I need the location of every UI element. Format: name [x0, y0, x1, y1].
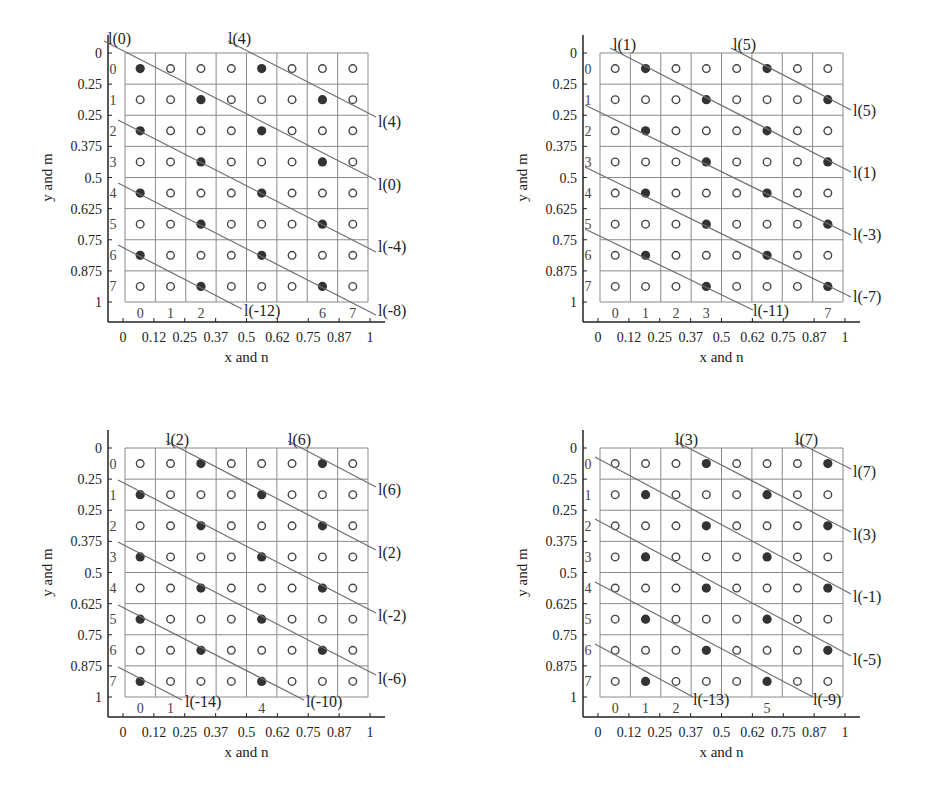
row-index-label: 5 — [110, 612, 117, 627]
y-tick-label: 0.75 — [553, 233, 578, 248]
row-index-label: 6 — [585, 643, 592, 658]
row-index-label: 5 — [110, 217, 117, 232]
row-index-label: 0 — [585, 457, 592, 472]
open-sample-dot — [167, 647, 175, 655]
open-sample-dot — [824, 615, 832, 623]
open-sample-dot — [258, 584, 266, 592]
open-sample-dot — [258, 283, 266, 291]
y-tick-label: 0.875 — [71, 659, 103, 674]
x-tick-label: 0.5 — [713, 725, 731, 740]
row-index-label: 2 — [110, 124, 117, 139]
row-index-label: 4 — [110, 186, 117, 201]
x-tick-label: 0.12 — [142, 330, 167, 345]
filled-sample-dot — [702, 459, 711, 468]
open-sample-dot — [733, 647, 741, 655]
diagonal-line-label: l(2) — [378, 544, 401, 562]
y-tick-label: 0 — [570, 46, 577, 61]
open-sample-dot — [167, 460, 175, 468]
open-sample-dot — [733, 189, 741, 197]
diagonal-line — [585, 105, 851, 235]
open-sample-dot — [672, 96, 680, 104]
filled-sample-dot — [641, 677, 650, 686]
open-sample-dot — [672, 252, 680, 260]
x-tick-label: 0.87 — [327, 725, 352, 740]
open-sample-dot — [794, 220, 802, 228]
open-sample-dot — [733, 127, 741, 135]
open-sample-dot — [763, 158, 771, 166]
y-tick-label: 0.25 — [78, 503, 103, 518]
open-sample-dot — [319, 65, 327, 73]
open-sample-dot — [349, 615, 357, 623]
open-sample-dot — [794, 283, 802, 291]
y-tick-label: 1 — [95, 295, 102, 310]
y-tick-label: 0.5 — [85, 566, 103, 581]
open-sample-dot — [824, 127, 832, 135]
filled-sample-dot — [762, 677, 771, 686]
filled-sample-dot — [702, 157, 711, 166]
row-index-label: 2 — [585, 519, 592, 534]
open-sample-dot — [167, 491, 175, 499]
open-sample-dot — [794, 647, 802, 655]
open-sample-dot — [642, 647, 650, 655]
y-tick-label: 0.25 — [78, 77, 103, 92]
open-sample-dot — [703, 615, 711, 623]
open-sample-dot — [672, 522, 680, 530]
filled-sample-dot — [318, 95, 327, 104]
open-sample-dot — [672, 553, 680, 561]
x-tick-label: 0.25 — [173, 330, 198, 345]
open-sample-dot — [197, 678, 205, 686]
open-sample-dot — [642, 460, 650, 468]
open-sample-dot — [228, 127, 236, 135]
open-sample-dot — [611, 96, 619, 104]
open-sample-dot — [349, 189, 357, 197]
open-sample-dot — [611, 678, 619, 686]
x-tick-label: 0.5 — [238, 330, 256, 345]
open-sample-dot — [197, 553, 205, 561]
x-tick-label: 0.75 — [296, 725, 321, 740]
open-sample-dot — [611, 252, 619, 260]
diagonal-line-label: l(-6) — [378, 670, 406, 688]
open-sample-dot — [228, 647, 236, 655]
open-sample-dot — [349, 584, 357, 592]
open-sample-dot — [319, 189, 327, 197]
y-tick-label: 0.375 — [71, 534, 103, 549]
diagonal-line-label: l(1) — [853, 164, 876, 182]
y-tick-label: 0 — [95, 46, 102, 61]
open-sample-dot — [733, 252, 741, 260]
open-sample-dot — [288, 522, 296, 530]
x-tick-label: 0.75 — [296, 330, 321, 345]
chart-panel-2: 00.250.250.3750.50.6250.750.875100.120.2… — [514, 35, 881, 365]
row-index-label: 4 — [585, 186, 592, 201]
open-sample-dot — [228, 189, 236, 197]
open-sample-dot — [197, 127, 205, 135]
open-sample-dot — [349, 678, 357, 686]
open-sample-dot — [672, 678, 680, 686]
open-sample-dot — [258, 522, 266, 530]
open-sample-dot — [228, 615, 236, 623]
row-index-label: 7 — [585, 674, 592, 689]
diagonal-line-label: l(6) — [378, 481, 401, 499]
open-sample-dot — [349, 647, 357, 655]
diagonal-line-top-label: l(7) — [795, 431, 818, 449]
open-sample-dot — [824, 252, 832, 260]
diagonal-line-top-label: l(4) — [228, 30, 251, 48]
row-index-label: 2 — [110, 519, 117, 534]
col-index-label: 1 — [642, 701, 649, 716]
y-tick-label: 0.5 — [560, 171, 578, 186]
open-sample-dot — [794, 127, 802, 135]
y-tick-label: 0.25 — [78, 108, 103, 123]
x-tick-label: 0.5 — [713, 330, 731, 345]
open-sample-dot — [611, 283, 619, 291]
diagonal-line — [104, 41, 376, 180]
col-index-label: 2 — [197, 306, 204, 321]
open-sample-dot — [733, 522, 741, 530]
open-sample-dot — [228, 460, 236, 468]
col-index-label: 7 — [824, 306, 831, 321]
row-index-label: 3 — [110, 155, 117, 170]
x-tick-label: 0.25 — [173, 725, 198, 740]
open-sample-dot — [167, 65, 175, 73]
filled-sample-dot — [762, 552, 771, 561]
row-index-label: 6 — [110, 248, 117, 263]
open-sample-dot — [703, 678, 711, 686]
open-sample-dot — [611, 127, 619, 135]
